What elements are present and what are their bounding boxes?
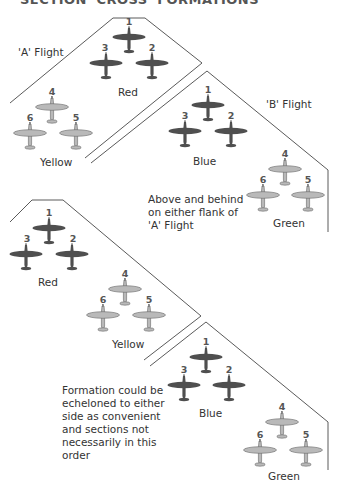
aircraft-dark-icon — [55, 243, 89, 273]
aircraft-light-icon — [246, 184, 280, 214]
section-label-green: Green — [268, 470, 300, 482]
aircraft-dark-icon — [89, 52, 123, 82]
aircraft-light-icon — [243, 439, 277, 469]
note-echelon: Formation could be echeloned to either s… — [62, 384, 165, 462]
a-flight-label: 'A' Flight — [18, 46, 64, 58]
aircraft-light-icon — [86, 304, 120, 334]
note-above-behind: Above and behind on either flank of 'A' … — [148, 193, 243, 232]
section-label-red: Red — [118, 86, 138, 98]
aircraft-dark-icon — [212, 374, 246, 404]
section-label-blue: Blue — [193, 155, 216, 167]
aircraft-light-icon — [59, 122, 93, 152]
aircraft-dark-icon — [135, 52, 169, 82]
section-label-green: Green — [273, 217, 305, 229]
aircraft-dark-icon — [167, 374, 201, 404]
aircraft-dark-icon — [9, 243, 43, 273]
section-label-yellow: Yellow — [40, 156, 72, 168]
aircraft-dark-icon — [189, 346, 223, 376]
aircraft-light-icon — [132, 304, 166, 334]
section-label-red: Red — [38, 276, 58, 288]
aircraft-light-icon — [289, 439, 323, 469]
aircraft-dark-icon — [168, 120, 202, 150]
aircraft-light-icon — [265, 411, 299, 441]
section-label-blue: Blue — [199, 407, 222, 419]
aircraft-light-icon — [291, 184, 325, 214]
section-label-yellow: Yellow — [112, 338, 144, 350]
aircraft-light-icon — [13, 122, 47, 152]
aircraft-dark-icon — [214, 120, 248, 150]
formation-diagram: SECTION 'CROSS' FORMATIONS 'A' Flight 'B… — [0, 0, 340, 485]
b-flight-label: 'B' Flight — [266, 98, 312, 110]
